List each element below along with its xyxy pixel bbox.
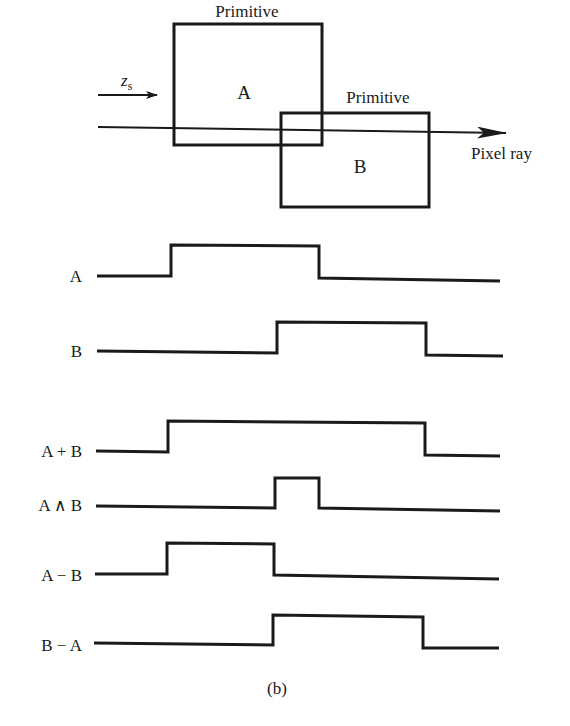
signal-a-plus-b-label: A + B	[41, 442, 82, 461]
signal-a-label: A	[70, 267, 83, 286]
signal-b: B	[71, 322, 503, 361]
depth-direction-label: zs	[120, 71, 133, 93]
z-subscript: s	[128, 79, 133, 93]
signal-b-minus-a-waveform	[94, 615, 499, 648]
primitive-b-letter: B	[354, 156, 367, 177]
signal-a-plus-b-waveform	[96, 421, 500, 456]
signal-a: A	[70, 245, 500, 286]
signal-b-label: B	[71, 342, 82, 361]
csg-diagram: Primitive A Primitive B zs Pixel ray A B…	[0, 0, 570, 726]
primitive-b-label: Primitive	[346, 88, 409, 107]
signal-a-and-b-waveform	[96, 478, 500, 511]
signal-a-minus-b-waveform	[95, 543, 499, 579]
signal-b-minus-a-label: B − A	[41, 636, 82, 655]
signal-b-waveform	[97, 322, 503, 356]
signal-b-minus-a: B − A	[41, 615, 499, 655]
figure-caption: (b)	[267, 679, 287, 698]
pixel-ray-arrow	[98, 127, 506, 133]
primitive-a-letter: A	[237, 82, 251, 103]
signal-a-minus-b: A − B	[41, 543, 499, 585]
signal-a-and-b: A ∧ B	[38, 478, 500, 515]
primitives-diagram: Primitive A Primitive B zs Pixel ray	[98, 2, 532, 207]
pixel-ray-label: Pixel ray	[471, 144, 532, 163]
signal-a-and-b-label: A ∧ B	[38, 496, 82, 515]
signal-a-minus-b-label: A − B	[41, 566, 82, 585]
signal-a-waveform	[97, 245, 500, 281]
signal-a-plus-b: A + B	[41, 421, 500, 461]
primitive-a-label: Primitive	[215, 2, 278, 21]
